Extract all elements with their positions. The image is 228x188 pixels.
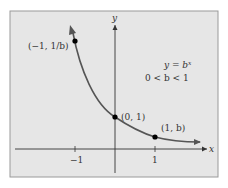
exponential-decay-graph: x y −1 1 (−1, 1/b) (0, 1) (1, b) y = bx … [0,0,228,188]
point-neg1 [72,38,77,43]
figure-panel [10,11,218,177]
point-label-1: (1, b) [161,123,185,133]
condition-label: 0 < b < 1 [145,73,189,83]
point-0 [112,114,117,119]
tick-label-neg1: −1 [70,155,83,165]
tick-label-1: 1 [152,155,158,165]
y-axis-label: y [111,13,118,23]
x-axis-label: x [209,144,214,154]
point-1 [152,134,157,139]
point-label-neg1: (−1, 1/b) [28,41,69,51]
equation-label: y = bx [163,59,192,70]
point-label-0: (0, 1) [121,112,145,122]
